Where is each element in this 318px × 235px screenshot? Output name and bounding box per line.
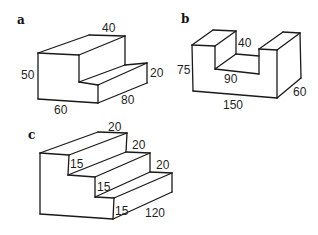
edge-line <box>38 53 79 55</box>
edge-line <box>79 82 98 85</box>
edge-line <box>38 35 89 53</box>
edge-line <box>40 153 69 155</box>
edge-line <box>150 172 172 173</box>
dimension-label: 120 <box>145 206 165 220</box>
edge-line <box>68 175 95 177</box>
edge-line <box>259 32 283 49</box>
edge-line <box>259 49 277 50</box>
panel-c-staircase-block: c202020151515120 <box>28 120 172 220</box>
dimension-label: 60 <box>293 85 307 99</box>
dimension-label: 50 <box>21 68 35 82</box>
panel-label: c <box>28 128 35 142</box>
edge-line <box>213 30 236 31</box>
panel-label: b <box>181 12 189 26</box>
edge-line <box>95 153 150 177</box>
edge-line <box>126 152 150 153</box>
dimension-label: 80 <box>121 93 135 107</box>
edge-line <box>300 33 301 78</box>
edge-line <box>79 65 125 82</box>
dimension-label: 150 <box>223 98 243 112</box>
edge-line <box>277 33 300 50</box>
dimension-label: 20 <box>156 158 170 172</box>
edge-line <box>236 54 259 56</box>
edge-line <box>89 35 125 36</box>
edge-line <box>38 99 98 103</box>
dimension-label: 20 <box>150 66 164 80</box>
dimension-label: 40 <box>102 21 116 35</box>
edge-line <box>283 32 300 33</box>
edge-line <box>68 155 69 175</box>
edge-line <box>192 30 213 45</box>
edge-line <box>114 173 172 198</box>
dimension-label: 40 <box>238 36 252 50</box>
edge-line <box>193 91 277 98</box>
dimension-label: 20 <box>108 120 122 134</box>
dimension-label: 15 <box>97 180 111 194</box>
edge-line <box>79 36 125 55</box>
edge-line <box>40 132 98 153</box>
dimension-label: 20 <box>132 138 146 152</box>
edge-line <box>113 198 114 219</box>
dimension-label: 90 <box>224 72 238 86</box>
edge-line <box>69 133 127 155</box>
edge-line <box>192 45 193 91</box>
dimension-label: 75 <box>177 63 191 77</box>
dimension-label: 60 <box>54 103 68 117</box>
edge-line <box>126 133 127 152</box>
dimension-label: 15 <box>70 157 84 171</box>
technical-drawing-canvas: a4050206080 b40759015060 c20202015151512… <box>0 0 318 235</box>
panel-label: a <box>17 13 25 27</box>
edge-line <box>215 31 236 46</box>
edge-line <box>95 197 114 198</box>
edge-line <box>215 54 236 69</box>
edge-line <box>40 214 113 219</box>
panel-b-u-channel-block: b40759015060 <box>177 12 307 112</box>
panel-a-single-step-block: a4050206080 <box>17 13 164 117</box>
dimension-label: 15 <box>115 204 129 218</box>
edge-line <box>192 45 215 46</box>
